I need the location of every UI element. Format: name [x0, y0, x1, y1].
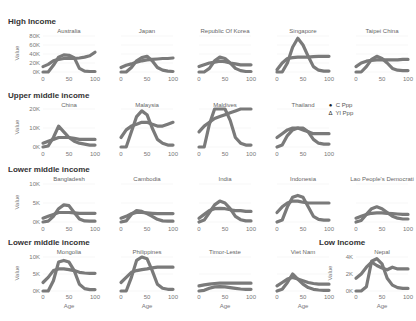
y-tick-label: 40K: [25, 51, 40, 57]
series-yl-ppp: [43, 126, 95, 147]
panel-plot-taipei-china: [356, 36, 408, 72]
panel-title: Singapore: [269, 28, 337, 34]
x-tick-label: 0: [115, 76, 127, 82]
group-title: Lower middle income: [8, 238, 90, 247]
x-tick-label: 0: [271, 76, 283, 82]
panel-title: Malaysia: [113, 102, 181, 108]
x-tick-label: 50: [219, 76, 231, 82]
x-axis-label: Age: [43, 303, 95, 309]
panel-title: China: [35, 102, 103, 108]
legend-label: C Ppp: [336, 102, 353, 108]
y-tick-label: 2K: [338, 271, 353, 277]
x-tick-label: 100: [89, 76, 101, 82]
x-tick-label: 100: [245, 294, 257, 300]
panel-plot-bangladesh: [43, 184, 95, 222]
panel-title: Mongolia: [35, 249, 103, 255]
y-tick-label: 10K: [25, 125, 40, 131]
panel-title: Indonesia: [269, 176, 337, 182]
x-tick-label: 100: [402, 226, 414, 232]
x-tick-label: 100: [167, 226, 179, 232]
series-c-ppp: [199, 61, 251, 66]
panel-title: Timor-Leste: [191, 249, 259, 255]
x-tick-label: 100: [245, 76, 257, 82]
panel-title: Japan: [113, 28, 181, 34]
x-tick-label: 50: [63, 151, 75, 157]
panel-title: Taipei China: [348, 28, 416, 34]
panel-plot-mongolia: [43, 257, 95, 291]
x-tick-label: 100: [323, 226, 335, 232]
panel-title: Lao People's Democrati: [348, 176, 416, 182]
panel-plot-indonesia: [277, 184, 329, 222]
group-title: Lower middle income: [8, 165, 90, 174]
panel-plot-singapore: [277, 36, 329, 72]
x-tick-label: 0: [271, 294, 283, 300]
circle-marker-icon: ●: [327, 101, 334, 109]
panel-plot-philippines: [121, 257, 173, 291]
panel-plot-timor-leste: [199, 257, 251, 291]
x-tick-label: 0: [37, 294, 49, 300]
x-tick-label: 0: [271, 226, 283, 232]
series-yl-ppp: [277, 195, 329, 222]
x-tick-label: 0: [350, 294, 362, 300]
x-tick-label: 0: [271, 151, 283, 157]
legend-item-c-ppp[interactable]: ● C Ppp: [327, 101, 353, 109]
y-tick-label: 0K: [25, 69, 40, 75]
x-tick-label: 50: [297, 76, 309, 82]
y-axis-label: Value: [14, 263, 20, 283]
x-tick-label: 0: [37, 226, 49, 232]
group-title: Low Income: [319, 238, 365, 247]
y-axis-label: Value: [14, 43, 20, 63]
panel-title: Bangladesh: [35, 176, 103, 182]
legend-item-yl-ppp[interactable]: Δ Yl Ppp: [327, 109, 353, 117]
x-tick-label: 100: [402, 76, 414, 82]
x-axis-label: Age: [356, 303, 408, 309]
x-tick-label: 0: [193, 76, 205, 82]
x-tick-label: 50: [141, 226, 153, 232]
x-tick-label: 0: [37, 76, 49, 82]
x-tick-label: 50: [376, 294, 388, 300]
panel-title: India: [191, 176, 259, 182]
x-tick-label: 100: [245, 151, 257, 157]
y-axis-label: Value: [14, 117, 20, 137]
panel-plot-maldives: [199, 109, 251, 147]
panel-plot-lao-people-s-democrati: [356, 184, 408, 222]
y-axis-label: Value: [14, 192, 20, 212]
x-tick-label: 0: [350, 76, 362, 82]
x-tick-label: 100: [89, 151, 101, 157]
x-tick-label: 100: [167, 151, 179, 157]
panel-plot-australia: [43, 36, 95, 72]
x-tick-label: 50: [376, 76, 388, 82]
x-tick-label: 100: [323, 294, 335, 300]
panel-plot-cambodia: [121, 184, 173, 222]
x-axis-label: Age: [121, 303, 173, 309]
x-tick-label: 0: [115, 226, 127, 232]
x-tick-label: 100: [323, 151, 335, 157]
y-tick-label: 5K: [25, 200, 40, 206]
x-tick-label: 0: [115, 294, 127, 300]
panel-plot-malaysia: [121, 109, 173, 147]
x-axis-label: Age: [199, 303, 251, 309]
x-tick-label: 50: [297, 294, 309, 300]
y-tick-label: 20K: [25, 60, 40, 66]
x-tick-label: 50: [297, 226, 309, 232]
x-tick-label: 100: [167, 76, 179, 82]
group-title: High Income: [8, 17, 56, 26]
x-tick-label: 50: [63, 76, 75, 82]
panel-title: Australia: [35, 28, 103, 34]
x-tick-label: 100: [323, 76, 335, 82]
panel-plot-japan: [121, 36, 173, 72]
x-tick-label: 0: [193, 226, 205, 232]
x-tick-label: 100: [167, 294, 179, 300]
panel-plot-viet-nam: [277, 257, 329, 291]
panel-title: Nepal: [348, 249, 416, 255]
x-tick-label: 0: [193, 294, 205, 300]
y-tick-label: 0K: [25, 144, 40, 150]
group-title: Upper middle income: [8, 91, 89, 100]
x-tick-label: 50: [141, 151, 153, 157]
panel-plot-india: [199, 184, 251, 222]
panel-plot-nepal: [356, 257, 408, 291]
x-tick-label: 100: [245, 226, 257, 232]
panel-plot-republic-of-korea: [199, 36, 251, 72]
x-tick-label: 0: [350, 226, 362, 232]
panel-title: Viet Nam: [269, 249, 337, 255]
